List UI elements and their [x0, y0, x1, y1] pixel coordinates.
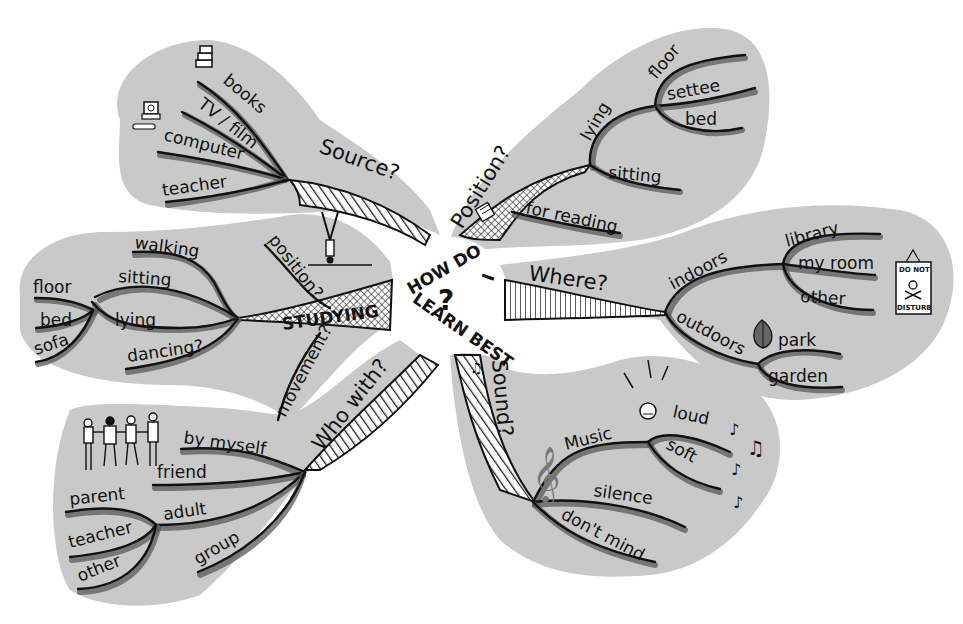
where-outdoors-garden[interactable]: garden [768, 366, 828, 386]
studying-lying[interactable]: lying [115, 310, 156, 330]
mind-map: HOW DO ? LEARN BEST I Source? books TV /… [0, 0, 963, 624]
sign-bottom-text: DISTURB [897, 304, 932, 312]
svg-text:𝄞: 𝄞 [532, 445, 560, 504]
svg-text:♫: ♫ [747, 436, 765, 460]
who-with-friend[interactable]: friend [157, 462, 207, 482]
svg-text:♪: ♪ [729, 420, 739, 439]
where-outdoors-park[interactable]: park [778, 330, 816, 350]
sign-top-text: DO NOT [899, 266, 930, 274]
studying-floor[interactable]: floor [33, 277, 72, 297]
treble-clef-icon: 𝄞 [532, 445, 560, 504]
where-indoors-other[interactable]: other [800, 286, 846, 308]
studying-bed[interactable]: bed [40, 310, 72, 330]
where-indoors-my-room[interactable]: my room [798, 253, 874, 273]
studying-sitting[interactable]: sitting [118, 266, 172, 290]
svg-text:♪: ♪ [731, 460, 741, 479]
position-lying-bed[interactable]: bed [685, 109, 717, 129]
svg-text:♪: ♪ [733, 493, 743, 512]
svg-text:♫: ♫ [470, 360, 483, 376]
